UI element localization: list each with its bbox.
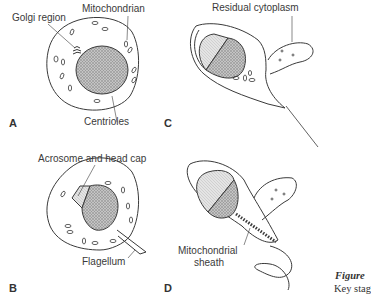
cell-d bbox=[187, 161, 296, 290]
panel-letter-d: D bbox=[164, 282, 172, 294]
label-golgi-region: Golgi region bbox=[12, 12, 66, 23]
cell-a-nucleus bbox=[76, 46, 128, 94]
label-residual-cytoplasm: Residual cytoplasm bbox=[212, 2, 299, 13]
cell-d-residual bbox=[254, 178, 296, 220]
cell-a bbox=[47, 16, 139, 122]
cell-b-nucleus bbox=[82, 185, 118, 230]
label-mitochondrial: Mitochondrial bbox=[178, 245, 237, 256]
cell-c bbox=[190, 16, 318, 147]
label-acrosome-head-cap: Acrosome and head cap bbox=[38, 153, 146, 164]
panel-letter-c: C bbox=[164, 117, 172, 129]
label-sheath: sheath bbox=[194, 257, 224, 268]
cell-d-flagellum bbox=[255, 246, 292, 290]
figure-caption-text: Key stag bbox=[334, 283, 371, 294]
label-centrioles: Centrioles bbox=[84, 116, 129, 127]
cell-c-residual-cytoplasm bbox=[268, 43, 313, 74]
label-flagellum: Flagellum bbox=[82, 256, 125, 267]
figure-caption-title: Figure bbox=[335, 270, 365, 281]
cell-b bbox=[47, 158, 146, 258]
panel-letter-a: A bbox=[9, 117, 17, 129]
label-mitochondrian: Mitochondrian bbox=[82, 3, 145, 14]
panel-letter-b: B bbox=[9, 282, 17, 294]
